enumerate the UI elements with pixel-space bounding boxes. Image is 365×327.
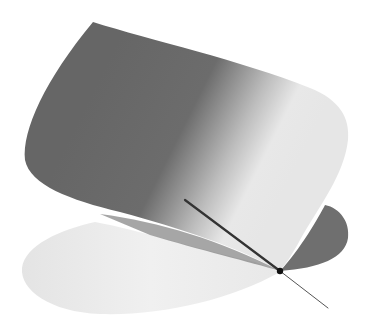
normal-line-thin [280, 271, 328, 308]
intersection-point [277, 268, 283, 274]
surface-diagram [0, 0, 365, 327]
